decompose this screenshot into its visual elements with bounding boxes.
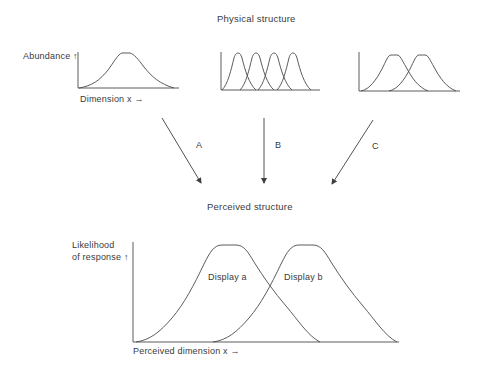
arrow-c bbox=[332, 120, 373, 184]
panel-2-curve-3 bbox=[258, 53, 292, 90]
perceived-structure-title: Perceived structure bbox=[207, 201, 293, 212]
physical-structure-title: Physical structure bbox=[217, 13, 296, 24]
panel-2-curve-1 bbox=[222, 53, 256, 90]
physical-panel-2 bbox=[221, 52, 320, 90]
panel-3-axes bbox=[359, 52, 460, 91]
physical-panel-1 bbox=[78, 52, 179, 88]
panel-3-curve-1 bbox=[361, 55, 428, 91]
perceived-y-label-line2: of response ↑ bbox=[72, 252, 129, 262]
perceived-chart bbox=[133, 242, 399, 342]
physical-panel-3 bbox=[359, 52, 460, 91]
panel-1-x-label: Dimension x → bbox=[80, 94, 144, 104]
panel-1-curve bbox=[79, 53, 174, 88]
perceived-x-label: Perceived dimension x → bbox=[133, 346, 240, 356]
arrow-b-label: B bbox=[275, 140, 281, 150]
display-b-curve bbox=[213, 245, 397, 342]
panel-1-y-label: Abundance ↑ bbox=[23, 51, 78, 61]
arrow-a bbox=[162, 118, 201, 183]
display-b-label: Display b bbox=[284, 272, 323, 282]
display-a-label: Display a bbox=[208, 272, 247, 282]
panel-3-curve-2 bbox=[389, 55, 456, 91]
perceived-axes bbox=[133, 242, 399, 342]
panel-1-axes bbox=[78, 52, 179, 88]
display-a-curve bbox=[136, 245, 320, 342]
arrow-a-label: A bbox=[196, 140, 202, 150]
perceived-y-label-line1: Likelihood bbox=[72, 240, 115, 250]
arrow-c-label: C bbox=[372, 141, 379, 151]
panel-2-curve-2 bbox=[240, 53, 274, 90]
